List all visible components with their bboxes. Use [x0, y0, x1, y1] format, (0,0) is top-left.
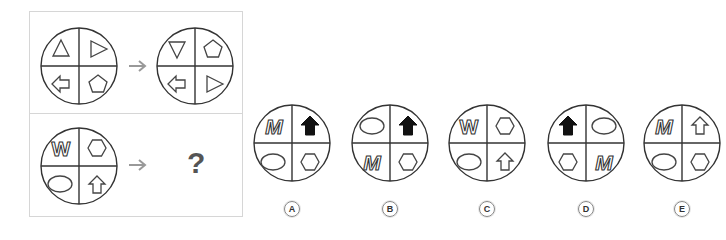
- triangle-down-icon: [169, 42, 185, 58]
- triangle-up-icon: [53, 40, 69, 56]
- triangle-right-icon: [207, 76, 223, 92]
- option-a[interactable]: [254, 105, 330, 181]
- arrow-left-icon: [52, 76, 69, 92]
- question-circle: [41, 128, 117, 204]
- unknown-answer: ?: [187, 146, 205, 180]
- option-b[interactable]: [352, 105, 428, 181]
- option-c-label[interactable]: C: [479, 201, 495, 217]
- option-e-label[interactable]: E: [674, 201, 690, 217]
- arrow-up-outline-icon: [89, 176, 105, 193]
- arrow-left-icon: [168, 76, 185, 92]
- option-d-label[interactable]: D: [578, 201, 594, 217]
- example-after-circle: [157, 28, 233, 104]
- option-d[interactable]: [548, 105, 624, 181]
- option-e[interactable]: [644, 105, 720, 181]
- ellipse-icon: [48, 176, 72, 192]
- arrow-right-icon: [129, 160, 145, 170]
- example-before-circle: [41, 28, 117, 104]
- arrow-right-icon: [129, 61, 145, 71]
- option-b-label[interactable]: B: [382, 201, 398, 217]
- letter-w-icon: [52, 136, 71, 160]
- option-c[interactable]: [449, 105, 525, 181]
- triangle-right-icon: [91, 41, 107, 57]
- hexagon-icon: [88, 140, 106, 156]
- pentagon-icon: [89, 75, 107, 92]
- option-a-label[interactable]: A: [284, 201, 300, 217]
- pentagon-icon: [204, 40, 222, 57]
